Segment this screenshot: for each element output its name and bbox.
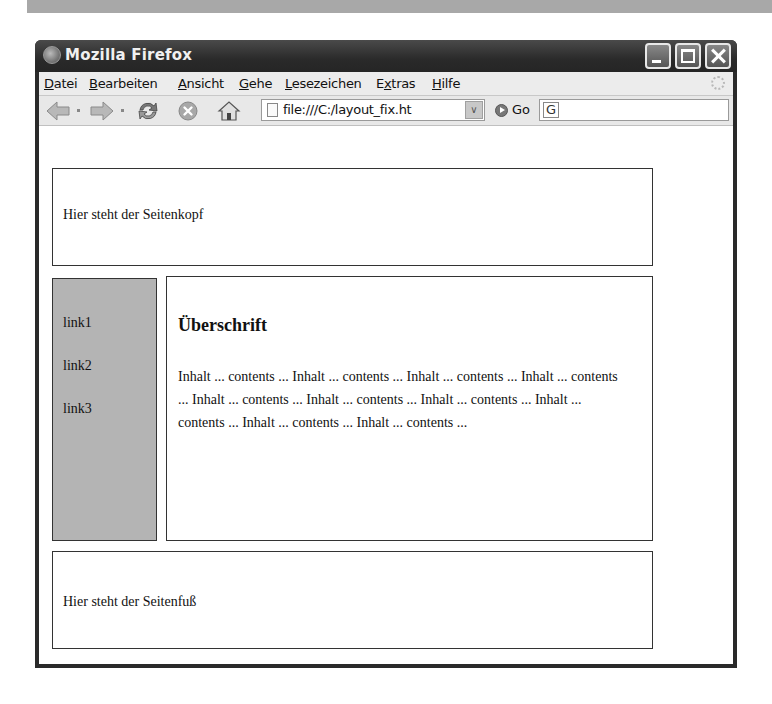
nav-link-2[interactable]: link2 (63, 358, 92, 374)
url-bar[interactable]: file:///C:/layout_fix.ht ∨ (261, 99, 485, 121)
menu-label-rest: ehe (249, 76, 272, 91)
search-engine-icon[interactable]: G (543, 102, 559, 118)
content-heading: Überschrift (178, 315, 267, 336)
menu-extras[interactable]: Extras (376, 76, 415, 91)
stop-icon[interactable] (177, 100, 199, 122)
menu-hilfe[interactable]: Hilfe (432, 76, 460, 91)
maximize-button[interactable] (675, 43, 701, 69)
menu-label-rest: nsicht (187, 76, 224, 91)
url-dropdown-button[interactable]: ∨ (465, 101, 483, 119)
close-button[interactable] (705, 43, 731, 69)
nav-link-3[interactable]: link3 (63, 401, 92, 417)
menu-label-rest: atei (54, 76, 77, 91)
menu-label-pre: E (376, 76, 384, 91)
header-text: Hier steht der Seitenkopf (63, 207, 203, 223)
go-icon[interactable] (495, 104, 508, 117)
page-sidebar-nav: link1 link2 link3 (52, 278, 157, 541)
menu-bar: Datei Bearbeiten Ansicht Gehe Lesezeiche… (39, 72, 733, 96)
page-main-content: Überschrift Inhalt ... contents ... Inha… (166, 276, 653, 541)
minimize-button[interactable] (645, 43, 671, 69)
menu-accel: L (285, 76, 292, 91)
reload-icon[interactable] (135, 100, 161, 122)
search-bar[interactable]: G (539, 99, 729, 121)
menu-label-rest: tras (391, 76, 415, 91)
top-decorative-strip (27, 0, 772, 13)
content-paragraph: Inhalt ... contents ... Inhalt ... conte… (178, 365, 618, 434)
footer-text: Hier steht der Seitenfuß (63, 594, 196, 610)
menu-label-rest: esezeichen (292, 76, 362, 91)
throbber-icon (711, 76, 725, 90)
navigation-toolbar: file:///C:/layout_fix.ht ∨ Go G (39, 96, 733, 126)
home-icon[interactable] (217, 100, 241, 122)
browser-window: Mozilla Firefox Datei Bearbeiten Ansicht… (35, 40, 737, 668)
menu-label-rest: earbeiten (98, 76, 158, 91)
back-dropdown-icon[interactable] (77, 109, 80, 112)
window-title: Mozilla Firefox (65, 46, 192, 64)
go-button[interactable]: Go (512, 102, 530, 117)
menu-accel: G (239, 76, 249, 91)
menu-accel: A (178, 76, 187, 91)
page-content: Hier steht der Seitenkopf link1 link2 li… (39, 126, 733, 664)
menu-accel: B (89, 76, 98, 91)
menu-accel: D (44, 76, 54, 91)
page-icon (267, 103, 278, 117)
nav-link-1[interactable]: link1 (63, 315, 92, 331)
menu-gehe[interactable]: Gehe (239, 76, 272, 91)
menu-label-rest: ilfe (441, 76, 460, 91)
menu-lesezeichen[interactable]: Lesezeichen (285, 76, 362, 91)
forward-icon[interactable] (89, 100, 115, 122)
back-icon[interactable] (45, 100, 71, 122)
page-footer: Hier steht der Seitenfuß (52, 551, 653, 649)
menu-datei[interactable]: Datei (44, 76, 77, 91)
menu-bearbeiten[interactable]: Bearbeiten (89, 76, 157, 91)
title-bar[interactable]: Mozilla Firefox (35, 40, 737, 72)
url-input[interactable]: file:///C:/layout_fix.ht (283, 102, 459, 117)
page-header: Hier steht der Seitenkopf (52, 168, 653, 266)
forward-dropdown-icon[interactable] (121, 109, 124, 112)
menu-ansicht[interactable]: Ansicht (178, 76, 224, 91)
firefox-logo-icon (43, 46, 61, 64)
